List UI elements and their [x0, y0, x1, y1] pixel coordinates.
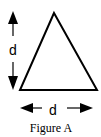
arrow-left-icon — [20, 103, 33, 113]
arrow-right-icon — [80, 103, 93, 113]
triangle — [20, 13, 97, 90]
figure-a-diagram: d d Figure A — [0, 0, 101, 137]
arrow-up-icon — [8, 11, 18, 24]
height-label: d — [9, 42, 17, 58]
arrow-down-icon — [8, 76, 18, 90]
figure-caption: Figure A — [30, 121, 73, 135]
base-label: d — [49, 102, 57, 118]
